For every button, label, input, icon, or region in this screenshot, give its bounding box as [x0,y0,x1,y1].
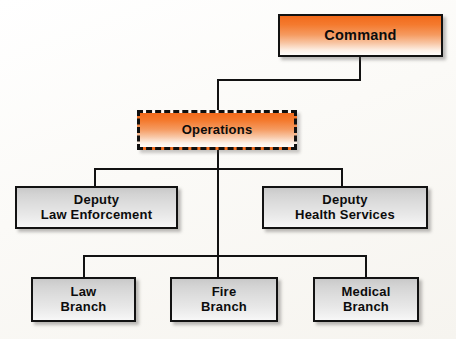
connector-command-elbow [217,79,361,81]
node-medical-branch[interactable]: Medical Branch [313,277,419,322]
node-law-branch[interactable]: Law Branch [31,277,136,322]
node-deputy-law-enforcement[interactable]: Deputy Law Enforcement [15,186,178,229]
node-command[interactable]: Command [278,14,443,57]
node-fire-branch-label: Fire Branch [201,285,247,313]
node-operations[interactable]: Operations [137,110,297,150]
connector-deputy-bar [94,168,343,170]
node-operations-label: Operations [182,123,253,137]
node-medical-branch-label: Medical Branch [341,285,390,313]
connector-elbow-to-operations [217,79,219,112]
node-command-label: Command [324,28,396,44]
connector-command-down [359,57,361,81]
connector-deputy-health-drop [341,168,343,186]
node-law-branch-label: Law Branch [61,285,107,313]
connector-branch-bar [83,255,367,257]
connector-deputy-law-drop [94,168,96,186]
node-fire-branch[interactable]: Fire Branch [170,277,278,322]
node-deputy-health-services[interactable]: Deputy Health Services [262,186,428,229]
node-deputy-law-enforcement-label: Deputy Law Enforcement [41,193,152,221]
connector-law-branch-drop [83,255,85,278]
connector-medical-branch-drop [365,255,367,278]
node-deputy-health-services-label: Deputy Health Services [295,193,395,221]
org-chart-diagram: Command Operations Deputy Law Enforcemen… [0,0,456,339]
